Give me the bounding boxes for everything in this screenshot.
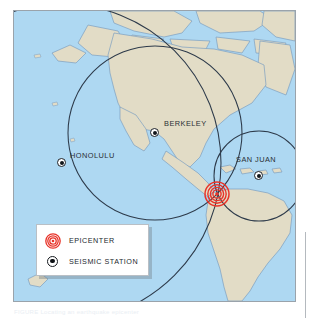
figure-caption: FIGURE Locating an earthquake epicenter — [14, 309, 139, 315]
epicenter-rings-icon — [45, 233, 61, 249]
legend-label-seismic-station: SEISMIC STATION — [69, 257, 138, 266]
station-label-berkeley: BERKELEY — [164, 119, 207, 128]
epicenter-marker[interactable] — [204, 181, 230, 207]
station-label-honolulu: HONOLULU — [70, 151, 115, 160]
map-legend: EPICENTER SEISMIC STATION — [36, 224, 149, 276]
map-canvas: BERKELEY HONOLULU SAN JUAN — [13, 10, 296, 302]
station-label-san-juan: SAN JUAN — [236, 155, 276, 164]
station-dot-san-juan[interactable] — [254, 171, 263, 180]
legend-row-seismic-station: SEISMIC STATION — [45, 251, 148, 272]
legend-row-epicenter: EPICENTER — [45, 230, 148, 251]
station-dot-berkeley[interactable] — [150, 128, 159, 137]
page-rule — [305, 232, 306, 318]
seismic-station-dot-icon — [45, 254, 61, 270]
earthquake-epicenter-figure: BERKELEY HONOLULU SAN JUAN — [0, 0, 315, 318]
station-dot-honolulu[interactable] — [57, 158, 66, 167]
legend-label-epicenter: EPICENTER — [69, 236, 115, 245]
